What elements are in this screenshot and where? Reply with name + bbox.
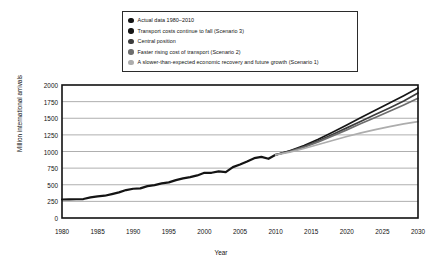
chart-legend: Actual data 1980–2010 Transport costs co…	[122, 11, 358, 72]
y-axis-tick-label: 0	[12, 215, 58, 222]
y-axis-tick-label: 2000	[12, 82, 58, 89]
x-axis-tick-label: 1995	[149, 228, 189, 235]
legend-marker-icon	[128, 49, 134, 55]
y-axis-tick-label: 500	[12, 181, 58, 188]
legend-marker-icon	[128, 18, 134, 24]
series-line	[276, 88, 418, 155]
legend-item-label: Transport costs continue to fall (Scenar…	[138, 26, 245, 37]
legend-marker-icon	[128, 28, 134, 34]
x-axis-tick-label: 1990	[113, 228, 153, 235]
x-axis-tick-label: 1980	[42, 228, 82, 235]
x-axis-tick-label: 2030	[398, 228, 438, 235]
y-axis-tick-label: 1500	[12, 115, 58, 122]
legend-item-label: Central position	[138, 36, 176, 47]
x-axis-tick-label: 2020	[327, 228, 367, 235]
legend-item-label: Faster rising cost of transport (Scenari…	[138, 47, 241, 58]
y-axis-tick-label: 1000	[12, 148, 58, 155]
chart-figure: Actual data 1980–2010 Transport costs co…	[0, 0, 442, 269]
legend-item-scenario-3: Transport costs continue to fall (Scenar…	[128, 26, 353, 37]
x-axis-tick-labels: 1980198519901995200020052010201520202025…	[0, 228, 442, 242]
y-axis-tick-label: 250	[12, 198, 58, 205]
legend-item-actual-data: Actual data 1980–2010	[128, 15, 353, 26]
x-axis-tick-label: 2000	[184, 228, 224, 235]
y-axis-tick-label: 1250	[12, 131, 58, 138]
x-axis-tick-label: 2025	[362, 228, 402, 235]
y-axis-tick-label: 750	[12, 165, 58, 172]
series-line	[62, 155, 276, 200]
legend-marker-icon	[128, 60, 134, 66]
series-line	[276, 93, 418, 155]
x-axis-tick-label: 2010	[256, 228, 296, 235]
series-line	[276, 98, 418, 155]
x-axis-tick-label: 1985	[78, 228, 118, 235]
x-axis-title: Year	[0, 249, 442, 256]
legend-item-central-position: Central position	[128, 36, 353, 47]
legend-item-scenario-1: A slower-than-expected economic recovery…	[128, 57, 353, 68]
y-axis-tick-label: 1750	[12, 98, 58, 105]
series-line	[276, 122, 418, 155]
series-layer	[62, 88, 418, 200]
legend-item-label: Actual data 1980–2010	[138, 15, 195, 26]
legend-marker-icon	[128, 39, 134, 45]
legend-item-scenario-2: Faster rising cost of transport (Scenari…	[128, 47, 353, 58]
x-axis-tick-label: 2005	[220, 228, 260, 235]
x-axis-tick-label: 2015	[291, 228, 331, 235]
legend-item-label: A slower-than-expected economic recovery…	[138, 57, 319, 68]
